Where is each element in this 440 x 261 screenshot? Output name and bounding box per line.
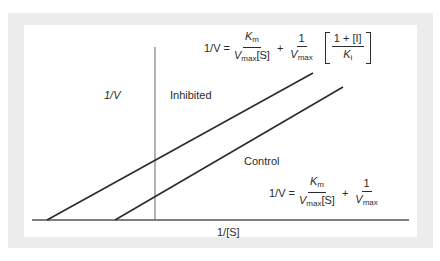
- y-axis-label: 1/V: [104, 89, 121, 101]
- one-over-vmax-fraction: 1 Vmax: [288, 32, 314, 64]
- equation-lhs: 1/V =: [204, 42, 230, 54]
- inhibited-equation: 1/V = Km Vmax[S] + 1 Vmax 1 + [I] Ki: [204, 30, 371, 65]
- control-equation: 1/V = Km Vmax[S] + 1 Vmax: [269, 175, 382, 210]
- x-axis-label: 1/[S]: [217, 226, 240, 238]
- km-over-vmax-s-fraction: Km Vmax[S]: [297, 175, 337, 210]
- left-bracket: [325, 32, 330, 64]
- km-over-vmax-s-fraction: Km Vmax[S]: [232, 30, 272, 65]
- plus-sign: +: [277, 42, 283, 54]
- right-bracket: [366, 32, 371, 64]
- plus-sign: +: [342, 187, 348, 199]
- inhibited-label: Inhibited: [170, 89, 212, 101]
- equation-lhs: 1/V =: [269, 187, 295, 199]
- inhibition-factor: 1 + [I] Ki: [325, 32, 371, 64]
- one-over-vmax-fraction: 1 Vmax: [353, 177, 379, 209]
- control-label: Control: [244, 155, 279, 167]
